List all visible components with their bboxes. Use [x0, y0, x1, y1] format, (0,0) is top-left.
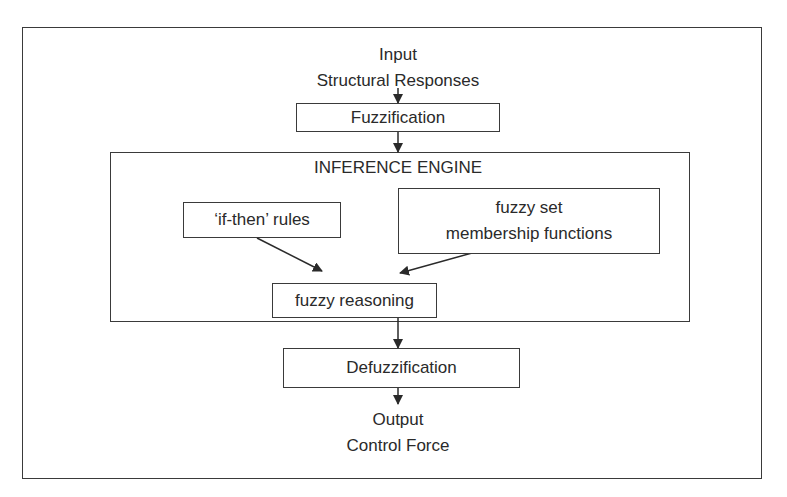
output-subtitle: Control Force [298, 433, 498, 459]
output-label: Output Control Force [298, 407, 498, 459]
defuzzification-box: Defuzzification [283, 348, 520, 388]
defuzzification-label: Defuzzification [346, 357, 457, 379]
membership-functions-line2: membership functions [446, 221, 612, 247]
membership-functions-line1: fuzzy set [495, 195, 562, 221]
membership-functions-box: fuzzy set membership functions [398, 188, 660, 254]
fuzzification-box: Fuzzification [296, 103, 500, 132]
fuzzy-reasoning-label: fuzzy reasoning [295, 290, 414, 312]
if-then-rules-box: ‘if-then’ rules [183, 202, 341, 238]
fuzzification-label: Fuzzification [351, 107, 445, 129]
if-then-rules-label: ‘if-then’ rules [214, 209, 310, 231]
output-title: Output [298, 407, 498, 433]
input-label: Input Structural Responses [298, 42, 498, 94]
arrow-rules-to-reasoning [257, 238, 322, 271]
arrow-membership-to-reasoning [400, 253, 472, 273]
inference-engine-title: INFERENCE ENGINE [298, 155, 498, 181]
fuzzy-reasoning-box: fuzzy reasoning [272, 283, 437, 318]
input-title: Input [298, 42, 498, 68]
input-subtitle: Structural Responses [298, 68, 498, 94]
